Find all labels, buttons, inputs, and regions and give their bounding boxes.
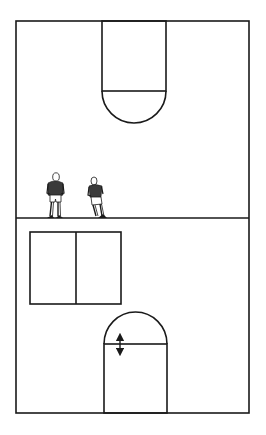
bottom-key xyxy=(104,312,167,413)
divided-box xyxy=(30,232,121,304)
diagram-canvas: Half-court drill diagram with two player… xyxy=(0,0,266,435)
top-key xyxy=(102,21,166,123)
basketball-court xyxy=(0,0,266,435)
player-1-figure xyxy=(47,173,64,218)
bottom-free-throw-arc xyxy=(104,312,167,344)
bottom-lane xyxy=(104,344,167,413)
player-shorts xyxy=(50,195,61,202)
player-2-figure xyxy=(88,177,107,218)
player-head xyxy=(53,173,60,181)
player-jersey xyxy=(48,181,63,197)
top-lane xyxy=(102,21,166,91)
top-free-throw-arc xyxy=(102,91,166,123)
player-shorts xyxy=(91,197,102,205)
player-head xyxy=(91,177,97,185)
